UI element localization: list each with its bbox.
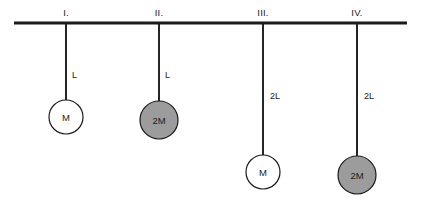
pendulum-diagram: I. L M II. L 2M III. 2L M IV. 2L 2M [0,0,423,204]
pendulum-length-label-II: L [165,70,170,80]
pendulum-bob-mass-label-III: M [259,167,267,178]
pendulum-bob-mass-label-IV: 2M [350,170,363,181]
pendulum-diagram-canvas: I. L M II. L 2M III. 2L M IV. 2L 2M [0,0,423,204]
pendulum-label-I: I. [63,7,69,18]
pendulum-bob-mass-label-II: 2M [152,115,165,126]
pendulum-length-label-I: L [72,70,77,80]
pendulum-label-III: III. [257,7,268,18]
pendulum-II: II. L 2M [140,7,178,139]
pendulum-length-label-III: 2L [270,91,280,101]
pendulum-IV: IV. 2L 2M [338,7,376,194]
pendulum-I: I. L M [49,7,83,134]
pendulum-III: III. 2L M [246,7,280,189]
pendulum-label-II: II. [155,7,164,18]
pendulum-label-IV: IV. [351,7,362,18]
pendulum-length-label-IV: 2L [364,91,374,101]
pendulum-bob-mass-label-I: M [62,112,70,123]
